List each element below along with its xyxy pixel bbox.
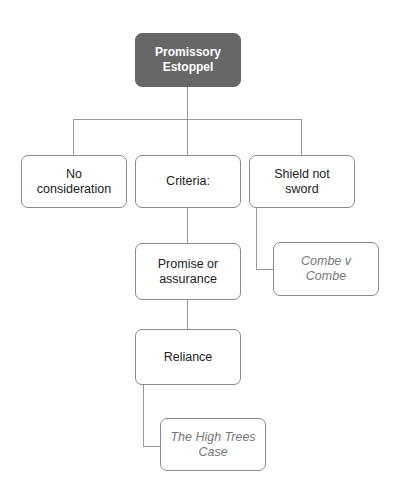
connector-reliance-hightrees-v [143, 385, 144, 446]
node-promise-or-assurance: Promise or assurance [135, 243, 241, 300]
node-promissory-estoppel: Promissory Estoppel [135, 33, 241, 87]
node-no-consideration: No consideration [21, 155, 127, 208]
node-combe-v-combe: Combe v Combe [273, 242, 379, 296]
node-high-trees-case: The High Trees Case [160, 418, 266, 471]
connector-promise-reliance [187, 300, 188, 329]
connector-criteria-promise [187, 208, 188, 243]
diagram-canvas: Promissory Estoppel No consideration Cri… [0, 0, 400, 493]
node-reliance: Reliance [135, 329, 241, 385]
node-shield-not-sword: Shield not sword [249, 155, 355, 208]
connector-shield-combe-h [256, 269, 273, 270]
connector-no-consideration [73, 119, 74, 155]
connector-shield-combe-v [256, 208, 257, 269]
connector-shield [301, 119, 302, 155]
connector-reliance-hightrees-h [143, 446, 160, 447]
connector-root-down [187, 87, 188, 119]
node-criteria: Criteria: [135, 155, 241, 208]
connector-criteria [187, 119, 188, 155]
